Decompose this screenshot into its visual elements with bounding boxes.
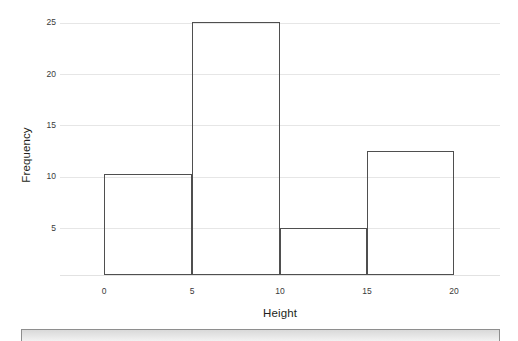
x-axis-baseline xyxy=(104,274,454,275)
x-tick-label-5: 5 xyxy=(177,287,207,296)
x-tick-label-20: 20 xyxy=(439,287,469,296)
x-tick-label-10: 10 xyxy=(265,287,295,296)
histogram-bar-10-15 xyxy=(280,228,367,275)
x-tick-label-0: 0 xyxy=(89,287,119,296)
histogram-figure: 25 20 15 10 5 Frequency 0 5 10 15 20 Hei… xyxy=(0,0,518,341)
histogram-bar-15-20 xyxy=(367,151,454,275)
bottom-panel-strip xyxy=(21,329,500,341)
x-tick-label-15: 15 xyxy=(352,287,382,296)
x-axis-title: Height xyxy=(180,306,380,320)
histogram-bar-5-10 xyxy=(192,22,280,275)
histogram-bar-0-5 xyxy=(104,174,192,275)
